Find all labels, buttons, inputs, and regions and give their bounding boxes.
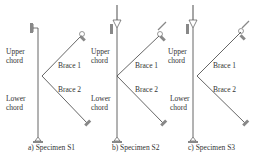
- top-support-hatch: [110, 24, 113, 34]
- brace2-label: Brace 2: [58, 85, 81, 94]
- lower-label: Lower: [170, 94, 190, 103]
- upper-label: Upper: [168, 47, 187, 56]
- top-support-icon: [33, 24, 38, 32]
- brace1-line: [117, 36, 159, 76]
- lower-label-2: chord: [91, 103, 108, 112]
- upper-label-2: chord: [91, 56, 108, 65]
- lower-label: Lower: [91, 94, 111, 103]
- top-support-hatch: [30, 23, 33, 33]
- panel-s3: Upper chord Lower chord Brace 1 Brace 2 …: [168, 5, 249, 152]
- specimen-diagram: Upper chord Lower chord Brace 1 Brace 2 …: [0, 0, 264, 152]
- brace-load-arrow: [242, 21, 249, 28]
- axial-load-arrowhead-icon: [189, 20, 197, 28]
- brace2-support-hatch: [242, 119, 249, 126]
- brace2-line: [42, 76, 87, 123]
- panel-s2: Upper chord Lower chord Brace 1 Brace 2 …: [91, 5, 167, 152]
- caption-s2: b) Specimen S2: [112, 143, 160, 152]
- brace1-label: Brace 1: [135, 61, 158, 70]
- brace2-line: [197, 76, 245, 123]
- lower-label-2: chord: [6, 103, 23, 112]
- axial-load-arrowhead-icon: [113, 20, 121, 28]
- upper-label: Upper: [91, 47, 110, 56]
- lower-label: Lower: [6, 94, 26, 103]
- brace2-label: Brace 2: [213, 85, 236, 94]
- brace1-line: [42, 36, 81, 76]
- upper-label-2: chord: [168, 56, 185, 65]
- lower-label-2: chord: [170, 103, 187, 112]
- caption-s3: c) Specimen S3: [188, 143, 235, 152]
- panel-s1: Upper chord Lower chord Brace 1 Brace 2 …: [6, 23, 91, 152]
- brace1-label: Brace 1: [213, 61, 236, 70]
- brace2-label: Brace 2: [135, 85, 158, 94]
- bottom-pin-icon: [114, 137, 120, 141]
- brace1-support-hatch: [239, 34, 245, 40]
- brace1-support-hatch: [159, 35, 165, 41]
- upper-label: Upper: [6, 47, 25, 56]
- top-support-hatch: [186, 24, 189, 34]
- caption-s1: a) Specimen S1: [28, 143, 75, 152]
- brace2-line: [117, 76, 163, 123]
- bottom-pin-icon: [35, 137, 41, 141]
- bottom-pin-icon: [190, 137, 196, 141]
- brace2-support-hatch: [160, 119, 167, 126]
- brace1-support-icon: [239, 29, 244, 34]
- brace-load-arrow: [158, 22, 166, 30]
- upper-label-2: chord: [6, 56, 23, 65]
- brace1-label: Brace 1: [58, 61, 81, 70]
